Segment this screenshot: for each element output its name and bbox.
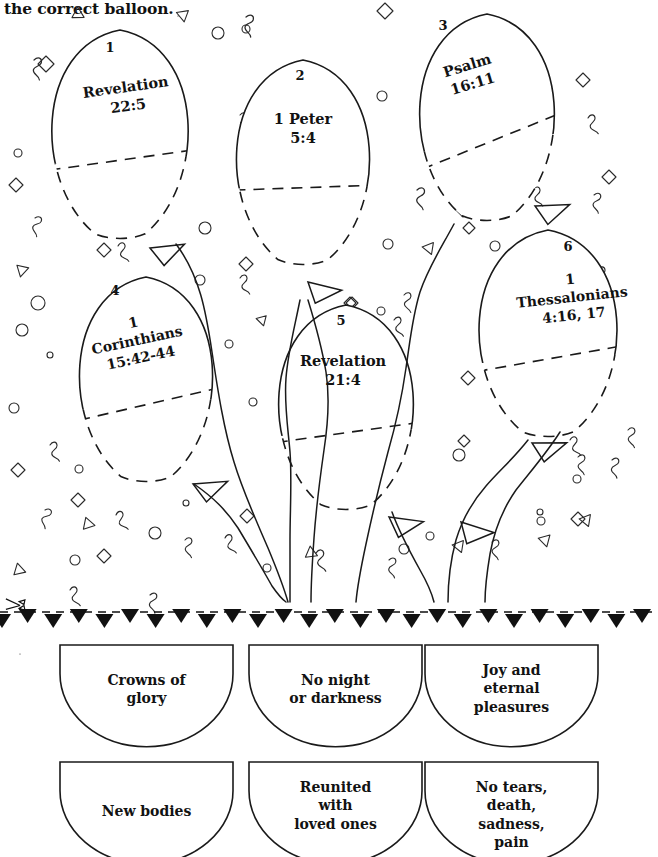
answer-card-label: Joy and eternal pleasures <box>425 661 598 716</box>
answer-card-label: No night or darkness <box>249 671 422 708</box>
worksheet-page: the correct balloon. 1Revelation 22:521 … <box>0 0 658 857</box>
answer-card-label: Crowns of glory <box>60 671 233 708</box>
answer-cards-layer <box>0 0 658 857</box>
answer-card-label: New bodies <box>60 802 233 820</box>
answer-card-label: No tears, death, sadness, pain <box>425 778 598 852</box>
answer-card-label: Reunited with loved ones <box>249 778 422 833</box>
